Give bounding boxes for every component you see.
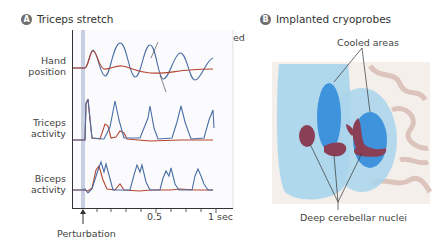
cooled-area-dark-left [317, 83, 341, 151]
nucleus-fastigial [299, 125, 315, 147]
cryoprobe-illustration [0, 0, 448, 244]
nucleus-interposed [324, 143, 346, 157]
